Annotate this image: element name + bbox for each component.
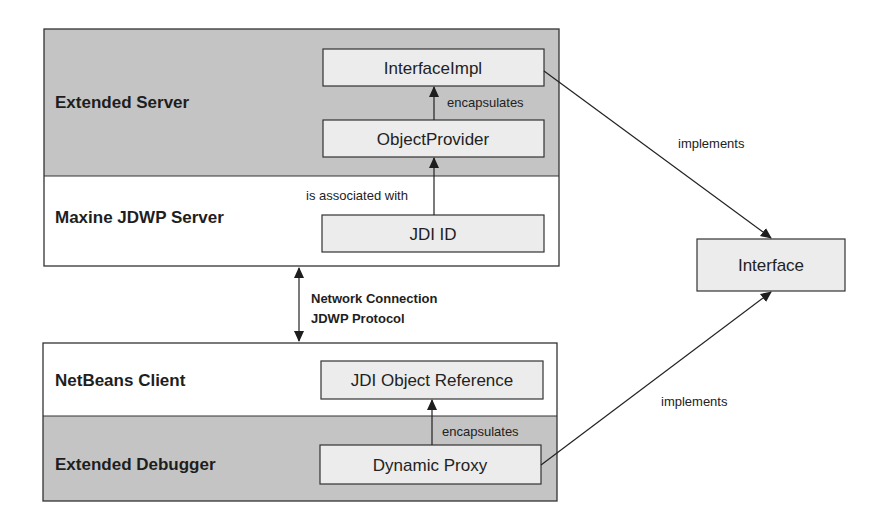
node-jdi-object-reference[interactable]: JDI Object Reference bbox=[321, 361, 543, 399]
maxine-jdwp-server-label: Maxine JDWP Server bbox=[55, 208, 224, 227]
client-implements-label: implements bbox=[661, 394, 728, 409]
is-associated-with-label: is associated with bbox=[306, 188, 408, 203]
jdi-id-label: JDI ID bbox=[409, 225, 456, 244]
node-dynamic-proxy[interactable]: Dynamic Proxy bbox=[320, 445, 541, 484]
dynamic-proxy-label: Dynamic Proxy bbox=[373, 456, 488, 475]
architecture-diagram: Extended Server Maxine JDWP Server Inter… bbox=[0, 0, 888, 528]
server-implements-arrow bbox=[544, 71, 771, 238]
extended-server-label: Extended Server bbox=[55, 93, 190, 112]
client-panel: NetBeans Client Extended Debugger JDI Ob… bbox=[43, 343, 557, 501]
network-connection: Network Connection JDWP Protocol bbox=[299, 268, 437, 341]
node-interface[interactable]: Interface bbox=[697, 239, 845, 291]
object-provider-label: ObjectProvider bbox=[377, 130, 490, 149]
node-jdi-id[interactable]: JDI ID bbox=[322, 215, 544, 252]
network-connection-label: Network Connection bbox=[311, 291, 437, 306]
server-implements-label: implements bbox=[678, 136, 745, 151]
debugger-encapsulates-label: encapsulates bbox=[442, 424, 519, 439]
jdi-object-reference-label: JDI Object Reference bbox=[351, 371, 514, 390]
netbeans-client-label: NetBeans Client bbox=[55, 371, 186, 390]
server-encapsulates-label: encapsulates bbox=[447, 95, 524, 110]
node-interface-impl[interactable]: InterfaceImpl bbox=[323, 49, 544, 86]
interface-impl-label: InterfaceImpl bbox=[384, 59, 482, 78]
jdwp-protocol-label: JDWP Protocol bbox=[311, 311, 405, 326]
server-panel: Extended Server Maxine JDWP Server Inter… bbox=[44, 29, 559, 266]
interface-label: Interface bbox=[738, 256, 804, 275]
extended-debugger-label: Extended Debugger bbox=[55, 455, 216, 474]
client-implements-arrow bbox=[541, 292, 771, 465]
node-object-provider[interactable]: ObjectProvider bbox=[323, 120, 544, 157]
